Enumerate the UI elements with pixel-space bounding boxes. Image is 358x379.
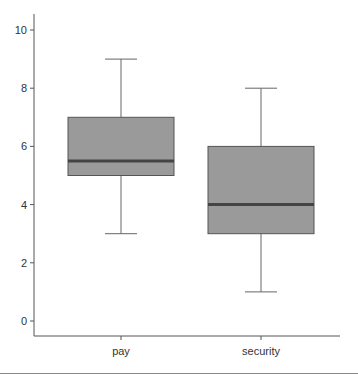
y-tick-label: 10 <box>15 24 27 36</box>
iqr-box <box>68 117 174 175</box>
y-axis: 0246810 <box>15 14 34 336</box>
y-tick-label: 2 <box>21 257 27 269</box>
x-tick-label-pay: pay <box>112 345 130 357</box>
box-security <box>208 88 314 292</box>
box-pay <box>68 59 174 234</box>
x-axis: paysecurity <box>34 336 340 357</box>
bottom-divider <box>0 373 358 374</box>
box-plot: 0246810 paysecurity <box>0 0 358 379</box>
y-tick-label: 0 <box>21 315 27 327</box>
y-tick-label: 8 <box>21 82 27 94</box>
y-tick-label: 6 <box>21 140 27 152</box>
y-tick-label: 4 <box>21 199 27 211</box>
x-tick-label-security: security <box>242 345 280 357</box>
boxes <box>68 59 314 292</box>
iqr-box <box>208 146 314 233</box>
